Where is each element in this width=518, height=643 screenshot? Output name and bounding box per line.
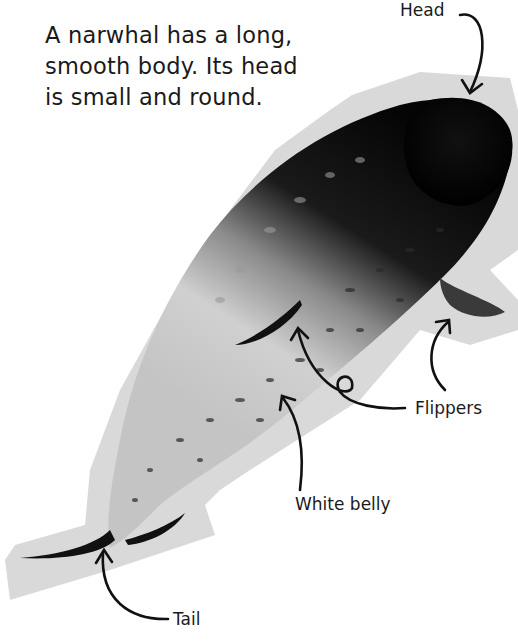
narwhal-page: A narwhal has a long, smooth body. Its h… [0, 0, 518, 643]
tail-label: Tail [173, 609, 200, 629]
white-belly-label: White belly [295, 494, 391, 514]
intro-text: A narwhal has a long, smooth body. Its h… [45, 20, 345, 113]
intro-line-3: is small and round. [45, 82, 345, 113]
flippers-label: Flippers [415, 398, 482, 418]
intro-line-2: smooth body. Its head [45, 51, 345, 82]
intro-line-1: A narwhal has a long, [45, 20, 345, 51]
head-label: Head [400, 0, 444, 20]
